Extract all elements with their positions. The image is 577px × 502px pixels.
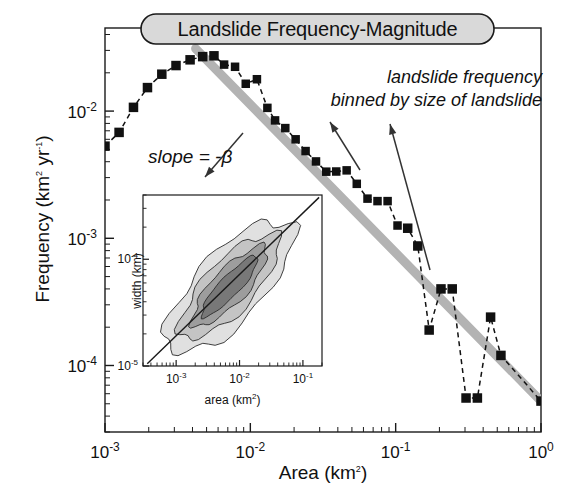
axis-tick-label: 10-2 xyxy=(229,371,249,386)
axis-tick-label: 10-5 xyxy=(118,358,138,373)
axis-tick-label: 10-1 xyxy=(381,440,411,463)
axis-tick-label: 10-2 xyxy=(236,440,266,463)
tick-label-layer: 10-310-210-110010-210-310-410-310-210-11… xyxy=(0,0,577,502)
axis-tick-label: 10-3 xyxy=(166,371,186,386)
axis-tick-label: 10-1 xyxy=(293,371,313,386)
axis-tick-label: 10-2 xyxy=(67,100,97,123)
figure-root: Landslide Frequency-Magnitude Frequency … xyxy=(0,0,577,502)
axis-tick-label: 10-4 xyxy=(118,251,138,266)
axis-tick-label: 100 xyxy=(528,440,554,463)
axis-tick-label: 10-3 xyxy=(90,440,120,463)
axis-tick-label: 10-4 xyxy=(67,354,97,377)
axis-tick-label: 10-3 xyxy=(67,227,97,250)
